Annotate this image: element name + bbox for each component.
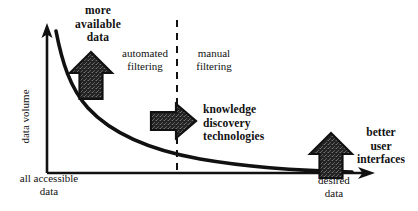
label-knowledge-discovery-technologies: knowledge discovery technologies — [203, 103, 299, 144]
label-x-axis-desired-data: desired data — [306, 174, 362, 200]
label-more-available-data: more available data — [52, 4, 144, 45]
label-y-axis-data-volume: data volume — [19, 80, 32, 152]
knowledge-discovery-arrow-icon — [151, 104, 196, 138]
label-better-user-interfaces: better user interfaces — [345, 126, 417, 167]
label-x-axis-all-accessible-data: all accessible data — [6, 172, 92, 198]
label-manual-filtering: manual filtering — [186, 47, 242, 73]
figure-canvas: more available data automated filtering … — [0, 0, 418, 211]
label-automated-filtering: automated filtering — [113, 47, 177, 73]
